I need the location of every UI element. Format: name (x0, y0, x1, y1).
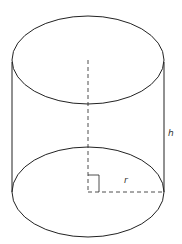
right-angle-mark (88, 175, 99, 192)
cylinder-diagram: h r (0, 0, 182, 244)
radius-label: r (124, 175, 129, 185)
height-label: h (168, 128, 174, 138)
